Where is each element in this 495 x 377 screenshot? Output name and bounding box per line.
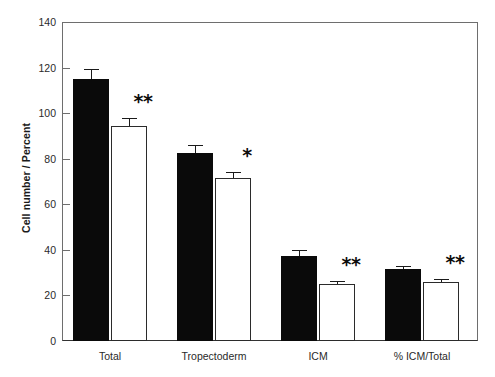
significance-marker: * — [242, 146, 251, 165]
y-axis-tick-label: 0 — [20, 335, 56, 347]
y-axis-tick-labels: 020406080100120140 — [0, 0, 56, 377]
bar-black-4 — [385, 269, 421, 341]
error-bar-cap — [434, 279, 449, 280]
significance-marker: ** — [342, 255, 361, 274]
error-bar-whisker — [129, 118, 130, 126]
error-bar-cap — [84, 69, 99, 70]
bar-white-3 — [319, 284, 355, 341]
error-bar-whisker — [91, 69, 92, 79]
y-axis-tick — [62, 250, 70, 251]
error-bar-whisker — [195, 145, 196, 153]
significance-marker: ** — [134, 92, 153, 111]
bar-chart-figure: Cell number / Percent 020406080100120140… — [0, 0, 495, 377]
bar-white-4 — [423, 282, 459, 341]
error-bar-cap — [396, 266, 411, 267]
bar-white-1 — [111, 126, 147, 341]
y-axis-tick-label: 80 — [20, 153, 56, 165]
bar-white-2 — [215, 178, 251, 341]
y-axis-tick — [62, 68, 70, 69]
bar-black-1 — [73, 79, 109, 341]
y-axis-tick — [62, 113, 70, 114]
x-axis-label-2: Tropectoderm — [182, 350, 247, 362]
bar-black-2 — [177, 153, 213, 341]
y-axis-tick-label: 60 — [20, 198, 56, 210]
y-axis-tick-label: 40 — [20, 244, 56, 256]
y-axis-tick — [62, 295, 70, 296]
x-axis-label-1: Total — [99, 350, 121, 362]
error-bar-cap — [188, 145, 203, 146]
y-axis-tick — [62, 22, 70, 23]
error-bar-cap — [226, 172, 241, 173]
significance-marker: ** — [446, 253, 465, 272]
error-bar-cap — [122, 118, 137, 119]
bar-black-3 — [281, 256, 317, 341]
error-bar-cap — [330, 281, 345, 282]
y-axis-tick-label: 20 — [20, 289, 56, 301]
y-axis-tick-label: 100 — [20, 107, 56, 119]
x-axis-label-3: ICM — [308, 350, 327, 362]
error-bar-cap — [292, 250, 307, 251]
x-axis-label-4: % ICM/Total — [394, 350, 451, 362]
y-axis-tick — [62, 159, 70, 160]
y-axis-tick — [62, 204, 70, 205]
y-axis-tick-label: 140 — [20, 16, 56, 28]
y-axis-tick-label: 120 — [20, 62, 56, 74]
